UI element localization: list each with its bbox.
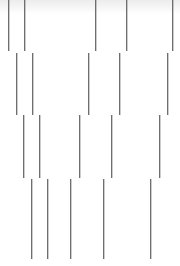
- vertical-line: [23, 115, 24, 178]
- vertical-line: [70, 179, 71, 259]
- vertical-line: [16, 53, 17, 115]
- vertical-line: [159, 115, 160, 178]
- vertical-line: [103, 179, 104, 259]
- vertical-line: [119, 53, 120, 115]
- vertical-line: [172, 0, 173, 51]
- vertical-line: [39, 115, 40, 178]
- line-graphic: [0, 0, 180, 266]
- vertical-line: [88, 53, 89, 115]
- vertical-line: [167, 53, 168, 115]
- vertical-line: [8, 0, 9, 51]
- vertical-line: [24, 0, 25, 51]
- vertical-line: [111, 115, 112, 178]
- vertical-line: [126, 0, 127, 51]
- vertical-line: [32, 53, 33, 115]
- vertical-line: [31, 179, 32, 259]
- vertical-line: [79, 115, 80, 178]
- vertical-line: [95, 0, 96, 51]
- vertical-line: [150, 179, 151, 259]
- vertical-line: [47, 179, 48, 259]
